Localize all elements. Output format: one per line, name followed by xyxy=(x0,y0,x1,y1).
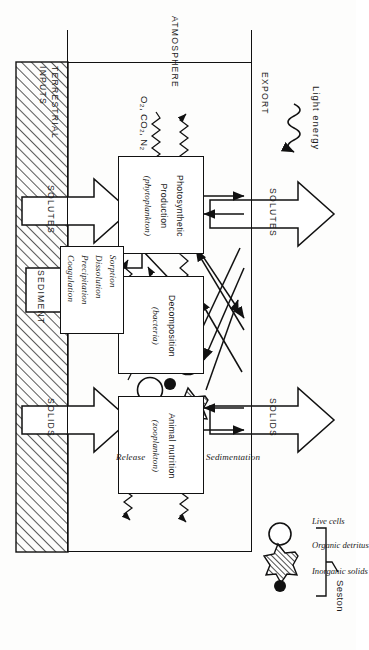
legend-item-inorganic-solids: Inorganic solids xyxy=(312,566,368,576)
chemistry-line-3: Precipitation xyxy=(79,255,90,305)
atmosphere-left-line xyxy=(67,62,252,63)
release-label: Release xyxy=(116,452,145,463)
gas-species-label: O₂, CO₂, N₂ xyxy=(139,96,150,151)
process-box-2-line2: (bacteria) xyxy=(150,277,161,375)
light-energy-label: Light energy xyxy=(311,86,322,150)
input-arrow-solids-label: SOLIDS xyxy=(46,398,56,437)
bottom-boundary-stub xyxy=(67,30,68,64)
chemistry-line-2: Dissolution xyxy=(93,255,104,299)
process-box-2-line1: Decomposition xyxy=(167,277,177,375)
legend-bracket-label: Seston xyxy=(335,580,346,612)
water-surface-line xyxy=(251,62,252,552)
legend-item-organic-detritus: Organic detritus xyxy=(312,540,369,550)
process-box-1-line3: (phytoplankton) xyxy=(142,157,153,255)
boundary-label-atmosphere: ATMOSPHERE xyxy=(170,16,180,88)
process-box-1-line1: Photosynthetic xyxy=(175,157,185,255)
process-box-animal-nutrition[interactable]: Animal nutrition (zooplankton) xyxy=(118,396,204,494)
sediment-left-line xyxy=(67,551,252,552)
process-box-1-line2: Production xyxy=(159,157,169,255)
process-box-photosynthetic-production[interactable]: Photosynthetic Production (phytoplankton… xyxy=(118,156,204,254)
boundary-label-export: EXPORT xyxy=(260,72,270,115)
boundary-label-sediment: SEDIMENT xyxy=(36,270,46,324)
top-boundary-stub xyxy=(251,30,252,64)
input-arrow-solutes-label: SOLUTES xyxy=(46,185,56,234)
process-box-3-line1: Animal nutrition xyxy=(167,397,177,495)
process-box-3-line2: (zooplankton) xyxy=(150,397,161,495)
legend-item-live-cells: Live cells xyxy=(312,516,345,526)
chemistry-process-box[interactable]: Sorption Dissolution Precipitation Coagu… xyxy=(60,246,124,334)
process-box-decomposition[interactable]: Decomposition (bacteria) xyxy=(118,276,204,374)
light-energy-squiggle xyxy=(288,104,300,152)
legend-symbols xyxy=(264,523,298,592)
sedimentation-label: Sedimentation xyxy=(206,452,260,463)
export-arrow-solutes-label: SOLUTES xyxy=(268,188,278,237)
export-arrow-solids-label: SOLIDS xyxy=(268,398,278,437)
boundary-label-terrestrial-2: INPUTS xyxy=(38,66,48,105)
chemistry-line-4: Coagulation xyxy=(65,255,76,302)
boundary-label-terrestrial-1: TERRESTRIAL xyxy=(50,66,60,139)
chemistry-line-1: Sorption xyxy=(107,255,118,288)
